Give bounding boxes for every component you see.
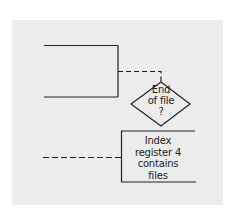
decision-line-1: End [138, 84, 184, 95]
upper-bracket [44, 46, 118, 98]
process-line-3: contains [125, 158, 191, 170]
decision-line-2: of file [138, 95, 184, 106]
process-line-2: register 4 [125, 147, 191, 159]
process-label: Index register 4 contains files [125, 135, 191, 181]
flowchart-canvas [0, 0, 235, 214]
dashed-connector-to-decision [118, 72, 161, 83]
process-line-1: Index [125, 135, 191, 147]
process-line-4: files [125, 170, 191, 182]
decision-line-3: ? [138, 106, 184, 117]
decision-label: End of file ? [138, 84, 184, 117]
